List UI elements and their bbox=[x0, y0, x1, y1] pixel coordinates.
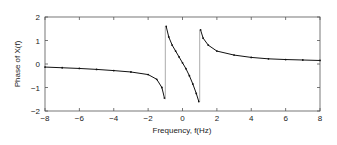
y-tick-label: −1 bbox=[31, 84, 41, 93]
y-tick-label: 1 bbox=[36, 37, 41, 46]
plot-area bbox=[45, 17, 320, 111]
data-point bbox=[216, 50, 218, 52]
y-axis-ticks: −2−1012 bbox=[31, 13, 320, 116]
x-tick-label: 0 bbox=[180, 114, 185, 123]
data-point bbox=[319, 60, 321, 62]
phase-curve bbox=[44, 26, 321, 103]
data-point bbox=[192, 83, 194, 85]
data-point bbox=[188, 75, 190, 77]
x-tick-label: −2 bbox=[144, 114, 154, 123]
data-point bbox=[268, 58, 270, 60]
x-axis-ticks: −8−6−4−202468 bbox=[40, 17, 322, 123]
data-point bbox=[195, 92, 197, 94]
y-tick-label: 2 bbox=[36, 13, 41, 22]
curve-segment bbox=[45, 67, 164, 98]
data-point bbox=[207, 44, 209, 46]
data-point bbox=[78, 68, 80, 70]
data-point bbox=[233, 54, 235, 56]
data-point bbox=[202, 37, 204, 39]
data-point bbox=[185, 68, 187, 70]
phase-chart: −8−6−4−202468 −2−1012 Frequency, f(Hz) P… bbox=[0, 0, 337, 145]
data-point bbox=[96, 69, 98, 71]
plot-frame bbox=[45, 17, 320, 111]
data-point bbox=[182, 62, 184, 64]
x-tick-label: −4 bbox=[109, 114, 119, 123]
data-point bbox=[61, 67, 63, 69]
x-axis-label: Frequency, f(Hz) bbox=[153, 126, 212, 135]
x-tick-label: 8 bbox=[318, 114, 323, 123]
x-tick-label: 2 bbox=[215, 114, 220, 123]
y-axis-label: Phase of X(f) bbox=[13, 40, 22, 87]
data-point bbox=[168, 36, 170, 38]
data-point bbox=[113, 70, 115, 72]
data-point bbox=[175, 50, 177, 52]
data-point bbox=[178, 56, 180, 58]
x-tick-label: −6 bbox=[75, 114, 85, 123]
data-point bbox=[302, 59, 304, 61]
data-point bbox=[250, 57, 252, 59]
data-point bbox=[130, 71, 132, 73]
y-tick-label: 0 bbox=[36, 60, 41, 69]
curve-segment bbox=[201, 30, 320, 61]
curve-segment bbox=[166, 26, 199, 101]
data-point bbox=[285, 59, 287, 61]
x-tick-label: 4 bbox=[249, 114, 254, 123]
x-tick-label: −8 bbox=[40, 114, 50, 123]
data-point bbox=[171, 44, 173, 46]
data-point bbox=[156, 78, 158, 80]
data-point bbox=[147, 74, 149, 76]
data-point bbox=[44, 66, 46, 68]
data-point bbox=[161, 87, 163, 89]
y-tick-label: −2 bbox=[31, 107, 41, 116]
x-tick-label: 6 bbox=[283, 114, 288, 123]
